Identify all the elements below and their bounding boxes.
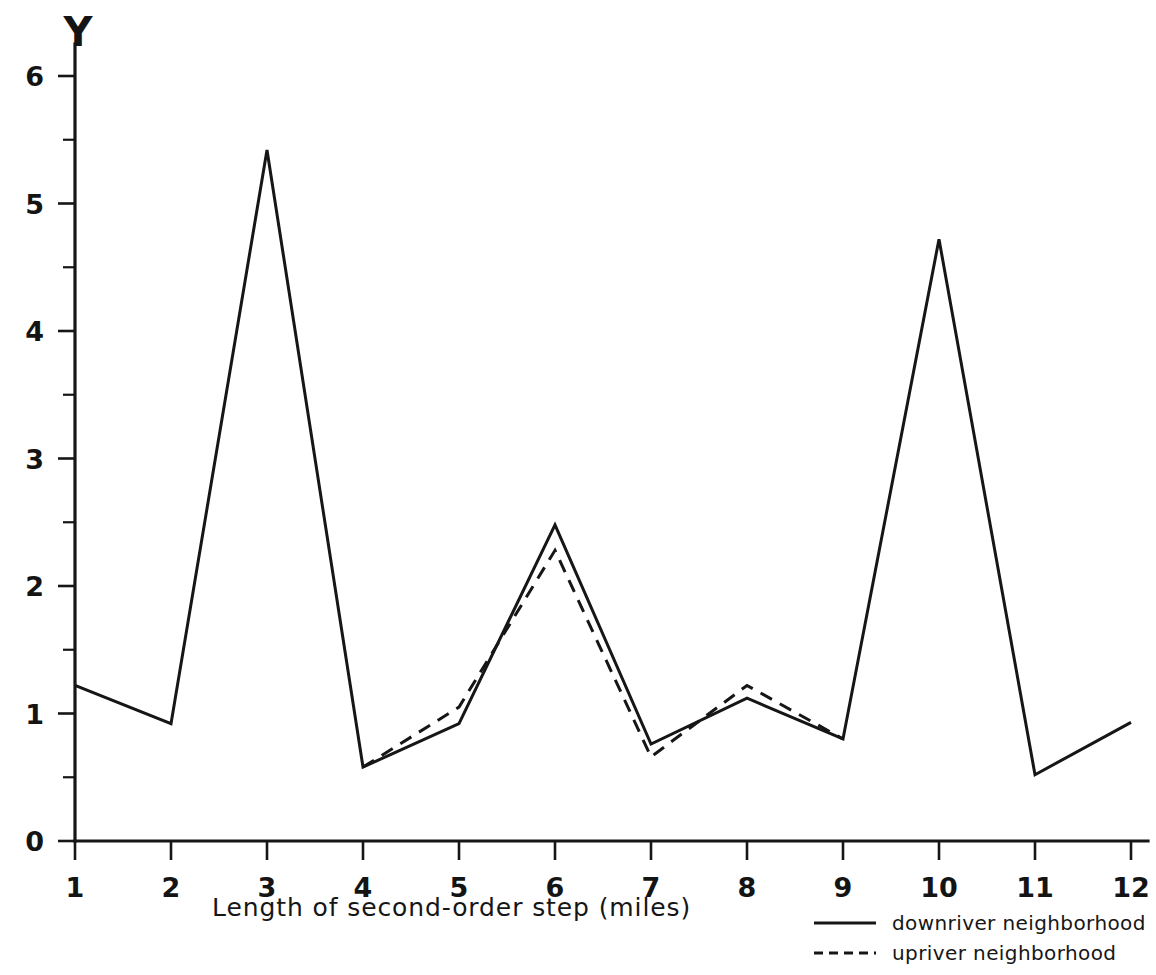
legend-dashed-line-icon <box>812 946 878 960</box>
y-tick-label: 5 <box>25 189 44 220</box>
legend-item-upriver: upriver neighborhood <box>812 938 1142 968</box>
y-tick-label: 6 <box>25 61 44 92</box>
legend-item-downriver: downriver neighborhood <box>812 908 1142 938</box>
y-tick-label: 4 <box>25 316 44 347</box>
y-tick-label: 1 <box>25 699 44 730</box>
x-tick-label: 2 <box>162 872 181 903</box>
x-tick-label: 12 <box>1112 872 1150 903</box>
axes-group <box>75 44 1148 841</box>
y-axis-label: Y <box>63 9 94 55</box>
chart-figure: 0123456123456789101112 Y Length of secon… <box>0 0 1156 975</box>
legend-label-downriver: downriver neighborhood <box>892 911 1146 935</box>
tick-marks-group <box>58 76 1131 860</box>
legend-solid-line-icon <box>812 916 878 930</box>
y-tick-label: 2 <box>25 571 44 602</box>
data-series-group <box>75 150 1131 775</box>
legend-label-upriver: upriver neighborhood <box>892 941 1116 965</box>
series-line-solid <box>75 150 1131 775</box>
chart-legend: downriver neighborhood upriver neighborh… <box>812 908 1142 968</box>
y-tick-label: 0 <box>25 826 44 857</box>
y-axis-label-group: Y <box>63 9 94 55</box>
x-tick-label: 8 <box>738 872 757 903</box>
x-tick-label: 10 <box>920 872 958 903</box>
x-tick-label: 11 <box>1016 872 1054 903</box>
x-tick-label: 9 <box>834 872 853 903</box>
x-axis-title: Length of second-order step (miles) <box>212 893 691 922</box>
y-tick-label: 3 <box>25 444 44 475</box>
line-chart-plot: 0123456123456789101112 Y <box>0 0 1156 975</box>
x-tick-label: 1 <box>66 872 85 903</box>
